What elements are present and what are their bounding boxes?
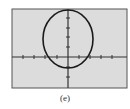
figure-caption: (e)	[0, 93, 130, 103]
screen-frame	[12, 9, 127, 88]
calculator-graph	[0, 0, 130, 92]
